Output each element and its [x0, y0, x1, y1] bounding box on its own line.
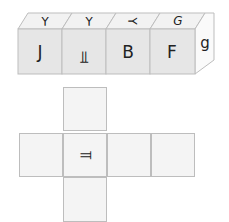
- top-label-1: ⅄: [41, 14, 50, 28]
- cube-strip-illustration: ⅄ ⅄ ⅄ G J ⫪ B F g: [0, 0, 229, 222]
- net-cell-left[interactable]: [19, 133, 63, 177]
- net-cell-right-1[interactable]: [107, 133, 151, 177]
- net-cell-top[interactable]: [63, 87, 107, 131]
- net-cell-right-2[interactable]: [151, 133, 195, 177]
- net-cell-center[interactable]: ⫪: [63, 133, 107, 177]
- net-cell-bottom[interactable]: [63, 177, 107, 222]
- front-label-2: ⫪: [79, 48, 89, 68]
- front-label-3: B: [122, 42, 134, 62]
- top-label-3: ⅄: [126, 17, 140, 26]
- front-label-4: F: [167, 42, 177, 62]
- top-label-4: G: [173, 14, 182, 28]
- right-label: g: [200, 34, 210, 52]
- net-center-label: ⫪: [76, 151, 95, 160]
- front-label-1: J: [36, 42, 42, 62]
- top-label-2: ⅄: [85, 14, 94, 28]
